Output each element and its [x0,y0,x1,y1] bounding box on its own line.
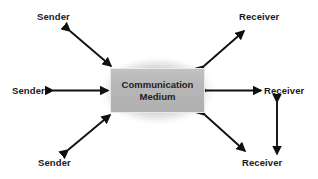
sender-mid-label: Sender [12,85,45,96]
arrow-sender-bottom-diagonal [68,115,110,150]
diagram-canvas: Communication Medium Sender Sender Sende… [0,0,318,179]
arrow-receiver-bottom-diagonal [205,115,245,151]
sender-top-label: Sender [37,11,70,22]
arrow-sender-top-diagonal [70,31,111,66]
sender-bottom-label: Sender [38,157,71,168]
communication-medium-node: Communication Medium [110,68,205,113]
receiver-top-label: Receiver [239,11,279,22]
arrow-receiver-top-diagonal [204,31,244,66]
receiver-mid-label: Receiver [264,85,304,96]
receiver-bottom-label: Receiver [242,157,282,168]
communication-medium-label: Communication Medium [122,79,194,102]
